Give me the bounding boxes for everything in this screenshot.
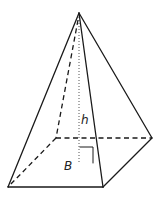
edge-apex-back-right bbox=[79, 13, 152, 138]
height-label: h bbox=[81, 113, 89, 127]
hidden-edge-apex-back-left bbox=[56, 20, 78, 138]
base-label: B bbox=[64, 159, 72, 173]
edge-apex-front-right bbox=[79, 13, 103, 187]
hidden-edge-left-base bbox=[8, 138, 56, 187]
edge-right-base bbox=[103, 138, 152, 187]
pyramid-diagram: h B bbox=[0, 0, 161, 199]
right-angle-marker bbox=[80, 147, 93, 163]
